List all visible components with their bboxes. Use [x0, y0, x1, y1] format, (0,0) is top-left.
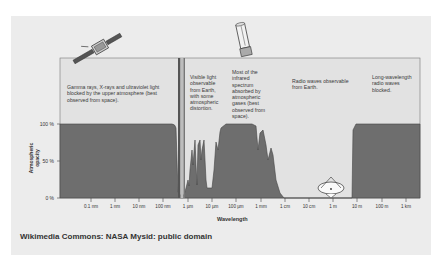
infrared-note: Most of the infrared spectrum absorbed b…	[232, 69, 270, 119]
opacity-curve	[60, 124, 420, 198]
x-tick-label: 1 km	[391, 204, 421, 209]
visible-band-edge-right	[184, 58, 186, 198]
gamma-note: Gamma rays, X-rays and ultraviolet light…	[67, 84, 163, 103]
long-radio-note: Long-wavelength radio waves blocked.	[372, 74, 414, 93]
space-telescope-icon	[234, 22, 252, 57]
x-ticks	[91, 198, 406, 202]
y-tick-0: 0 %	[34, 195, 54, 201]
visible-band-edge-left	[178, 58, 181, 198]
visible-note: Visible light observable from Earth, wit…	[190, 74, 226, 112]
y-tick-100: 100 %	[34, 121, 54, 127]
y-axis-title: Atmospheric opacity	[28, 138, 40, 178]
visible-band	[181, 58, 184, 198]
x-axis-title: Wavelength	[217, 216, 248, 222]
image-caption: Wikimedia Commons: NASA Mysid: public do…	[20, 232, 212, 241]
opacity-chart	[0, 0, 443, 269]
radio-note: Radio waves observable from Earth.	[292, 78, 356, 91]
